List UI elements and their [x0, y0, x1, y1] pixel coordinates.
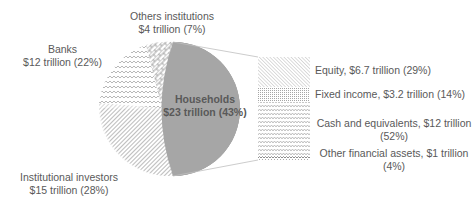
label-banks-name: Banks: [20, 43, 105, 56]
label-households-name: Households: [155, 93, 255, 106]
label-equity: Equity, $6.7 trillion (29%): [315, 64, 431, 77]
label-households: Households $23 trillion (43%): [155, 93, 255, 119]
bar-segment-equity[interactable]: [258, 57, 310, 87]
label-others-name: Others institutions: [117, 10, 227, 23]
label-other-line1: Other financial assets, $1 trillion: [314, 147, 473, 160]
label-fixed-income: Fixed income, $3.2 trillion (14%): [315, 88, 465, 101]
label-households-value: $23 trillion (43%): [155, 106, 255, 119]
label-institutional-value: $15 trillion (28%): [14, 184, 124, 197]
bar-segment-cash[interactable]: [258, 102, 310, 156]
label-others-institutions: Others institutions $4 trillion (7%): [117, 10, 227, 36]
stacked-bar: [258, 57, 310, 160]
bar-segment-other-assets[interactable]: [258, 156, 310, 160]
label-cash: Cash and equivalents, $12 trillion (52%): [314, 117, 473, 143]
label-other-line2: (4%): [314, 160, 473, 173]
label-others-value: $4 trillion (7%): [117, 23, 227, 36]
bar-segment-fixed-income[interactable]: [258, 87, 310, 102]
label-cash-line2: (52%): [314, 130, 473, 143]
label-other-assets: Other financial assets, $1 trillion (4%): [314, 147, 473, 173]
label-banks: Banks $12 trillion (22%): [20, 43, 105, 69]
label-cash-line1: Cash and equivalents, $12 trillion: [314, 117, 473, 130]
label-institutional-name: Institutional investors: [14, 171, 124, 184]
label-banks-value: $12 trillion (22%): [20, 56, 105, 69]
label-institutional-investors: Institutional investors $15 trillion (28…: [14, 171, 124, 197]
